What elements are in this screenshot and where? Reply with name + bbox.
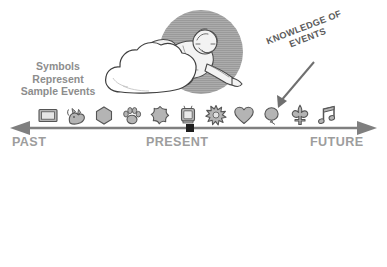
future-arrowhead-top bbox=[357, 121, 377, 135]
past-arrowhead-top bbox=[10, 121, 30, 135]
deity-illustration bbox=[103, 8, 243, 110]
symbols-caption: Symbols Represent Sample Events bbox=[6, 60, 110, 98]
timeline-axis-top bbox=[0, 120, 387, 136]
axis-label-past-top: PAST bbox=[12, 135, 46, 149]
top-panel: Symbols Represent Sample Events KNOWLEDG… bbox=[0, 0, 387, 150]
cloud-icon bbox=[103, 36, 203, 98]
symbols-caption-line1: Symbols bbox=[6, 60, 110, 73]
axis-label-present-top: PRESENT bbox=[146, 135, 208, 149]
knowledge-of-events-annotation: KNOWLEDGE OF EVENTS bbox=[257, 6, 355, 61]
bottom-panel: MUST HAPPEN: EVENTS bbox=[0, 150, 387, 267]
symbols-caption-line2: Represent bbox=[6, 73, 110, 86]
present-marker-top bbox=[186, 124, 194, 132]
figure-canvas: Symbols Represent Sample Events KNOWLEDG… bbox=[0, 0, 387, 267]
symbols-caption-line3: Sample Events bbox=[6, 85, 110, 98]
axis-label-future-top: FUTURE bbox=[310, 135, 363, 149]
